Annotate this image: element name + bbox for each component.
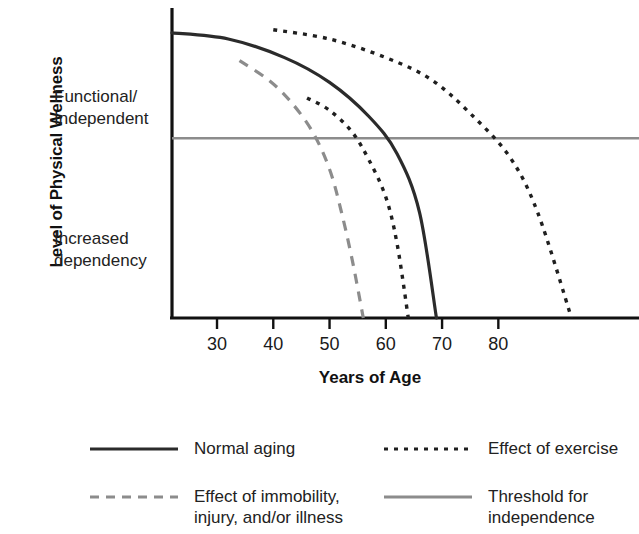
x-axis-title: Years of Age [170, 368, 570, 388]
wellness-aging-chart: Level of Physical Wellness Functional/ I… [0, 0, 639, 534]
legend-item-effect-of-immobility[interactable]: Effect of immobility, injury, and/or ill… [88, 486, 343, 528]
chart-legend: Normal aging Effect of exercise Effect o… [0, 424, 639, 534]
series-curve-3 [240, 61, 364, 318]
legend-item-threshold-for-independence[interactable]: Threshold for independence [382, 486, 595, 528]
x-axis-tick-label-80: 80 [478, 334, 518, 355]
x-axis-tick-label-30: 30 [197, 334, 237, 355]
legend-swatch-solid-grey-icon [382, 486, 474, 506]
legend-label-effect-of-exercise: Effect of exercise [488, 438, 618, 459]
legend-item-effect-of-exercise[interactable]: Effect of exercise [382, 438, 618, 459]
legend-swatch-dotted-dark-icon [382, 438, 474, 458]
series-curve-1 [273, 30, 571, 318]
x-axis-tick-label-40: 40 [253, 334, 293, 355]
x-axis-tick-marks [217, 318, 498, 329]
x-axis-tick-label-50: 50 [310, 334, 350, 355]
series-curve-2 [307, 98, 408, 318]
x-axis-tick-label-60: 60 [366, 334, 406, 355]
series-curves [172, 30, 571, 318]
legend-label-effect-of-immobility: Effect of immobility, injury, and/or ill… [194, 486, 343, 528]
legend-label-threshold-for-independence: Threshold for independence [488, 486, 595, 528]
series-curve-0 [172, 33, 436, 318]
legend-swatch-dashed-grey-icon [88, 486, 180, 506]
x-axis-tick-label-70: 70 [422, 334, 462, 355]
legend-swatch-solid-dark-icon [88, 438, 180, 458]
legend-item-normal-aging[interactable]: Normal aging [88, 438, 295, 459]
legend-label-normal-aging: Normal aging [194, 438, 295, 459]
